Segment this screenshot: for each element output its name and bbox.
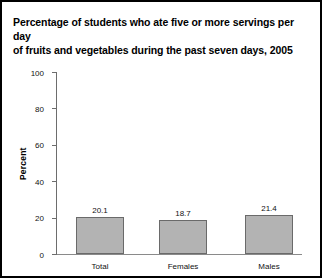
bar-group-females: 18.7 Females — [159, 72, 207, 254]
y-tick-label-20: 20 — [35, 214, 44, 223]
x-axis-baseline — [56, 254, 302, 255]
bar-series: 20.1 Total 18.7 Females 21.4 Males — [57, 72, 302, 254]
y-tick-label-40: 40 — [35, 177, 44, 186]
bar-females[interactable] — [159, 220, 207, 254]
chart-figure: Percentage of students who ate five or m… — [0, 0, 322, 278]
chart-title: Percentage of students who ate five or m… — [13, 15, 313, 57]
bar-group-males: 21.4 Males — [245, 72, 293, 254]
bar-group-total: 20.1 Total — [76, 72, 124, 254]
y-tick-label-60: 60 — [35, 141, 44, 150]
y-tick-label-100: 100 — [31, 68, 44, 77]
chart-title-line-2: of fruits and vegetables during the past… — [13, 43, 313, 57]
plot-area: 100 80 60 40 20 0 20.1 Total 18.7 Fe — [57, 72, 302, 254]
bar-value-males: 21.4 — [245, 204, 293, 213]
y-axis-title: Percent — [16, 134, 30, 194]
x-category-label-males: Males — [245, 262, 293, 271]
x-category-label-females: Females — [159, 262, 207, 271]
bar-total[interactable] — [76, 217, 124, 254]
chart-title-line-1: Percentage of students who ate five or m… — [13, 16, 294, 42]
y-tick-label-0: 0 — [40, 250, 44, 259]
bar-value-total: 20.1 — [76, 206, 124, 215]
y-tick-label-80: 80 — [35, 104, 44, 113]
bar-value-females: 18.7 — [159, 209, 207, 218]
y-tick-0: 0 — [52, 254, 57, 255]
x-category-label-total: Total — [76, 262, 124, 271]
bar-males[interactable] — [245, 215, 293, 254]
